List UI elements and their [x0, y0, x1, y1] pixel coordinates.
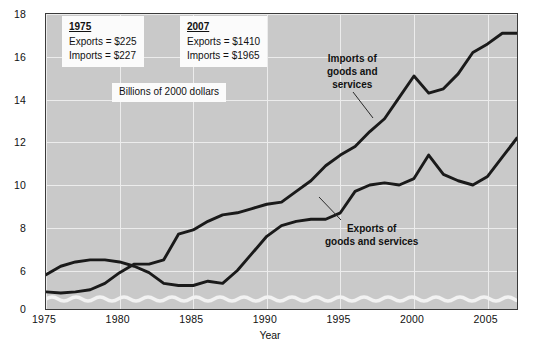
x-axis-tick-1995: 1995	[326, 313, 350, 325]
leader-line-imports	[353, 92, 373, 118]
x-axis-tick-1980: 1980	[106, 313, 130, 325]
x-axis-tick-1975: 1975	[32, 313, 56, 325]
x-axis-tick-1990: 1990	[253, 313, 277, 325]
annotation-imports-1975: Imports = $227	[69, 49, 137, 63]
y-axis-tick-0: 0	[20, 303, 26, 315]
x-axis-tick-1985: 1985	[179, 313, 203, 325]
annotation-box-1975: 1975 Exports = $225 Imports = $227	[62, 16, 144, 67]
units-note: Billions of 2000 dollars	[112, 83, 226, 102]
series-label-exports-line-2: goods and services	[325, 235, 418, 248]
series-line-exports	[46, 138, 517, 286]
y-axis-tick-16: 16	[14, 51, 26, 63]
y-axis-tick-8: 8	[20, 222, 26, 234]
x-axis-tick-2005: 2005	[474, 313, 498, 325]
series-label-imports-line-1: Imports of	[327, 52, 378, 65]
y-axis-tick-14: 14	[14, 94, 26, 106]
y-axis-tick-12: 12	[14, 136, 26, 148]
y-axis-tick-18: 18	[14, 8, 26, 20]
annotation-exports-2007: Exports = $1410	[187, 35, 260, 49]
annotation-year-1975: 1975	[69, 20, 137, 34]
series-label-imports: Imports of goods and services	[327, 52, 378, 92]
annotation-exports-1975: Exports = $225	[69, 35, 137, 49]
y-axis-tick-6: 6	[20, 265, 26, 277]
annotation-imports-2007: Imports = $1965	[187, 49, 260, 63]
series-line-imports	[46, 33, 517, 293]
y-axis-tick-10: 10	[14, 179, 26, 191]
series-label-imports-line-3: services	[327, 78, 378, 91]
x-axis-title: Year	[0, 329, 540, 341]
x-axis-tick-2000: 2000	[400, 313, 424, 325]
series-label-imports-line-2: goods and	[327, 65, 378, 78]
annotation-year-2007: 2007	[187, 20, 260, 34]
chart-figure: 0681012141618 Percentage of GDP 19751980…	[0, 0, 540, 345]
series-label-exports-line-1: Exports of	[325, 222, 418, 235]
axis-break-wave	[46, 297, 517, 301]
annotation-box-2007: 2007 Exports = $1410 Imports = $1965	[180, 16, 267, 67]
series-label-exports: Exports of goods and services	[325, 222, 418, 248]
